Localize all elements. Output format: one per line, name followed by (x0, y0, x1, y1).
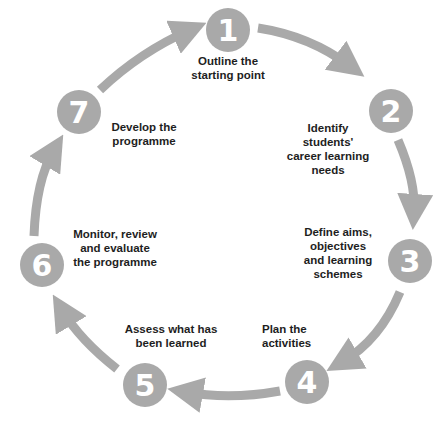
step-7-label: Develop the programme (104, 120, 184, 148)
step-5-circle: 5 (123, 363, 167, 407)
step-7-circle: 7 (57, 90, 101, 134)
step-1-label: Outline the starting point (178, 54, 278, 82)
arrow-4-to-5 (185, 391, 280, 396)
step-2-label: Identify students' career learning needs (276, 121, 380, 177)
step-3-circle: 3 (388, 239, 432, 283)
step-5-label: Assess what has been learned (116, 322, 226, 350)
step-4-label: Plan the activities (262, 322, 332, 350)
arrow-2-to-3 (398, 140, 414, 212)
step-6-circle: 6 (20, 243, 64, 287)
career-learning-cycle-diagram: 1 2 3 4 5 6 7 Outline the starting point… (0, 0, 441, 431)
arrow-6-to-7 (34, 150, 54, 236)
step-6-label: Monitor, review and evaluate the program… (66, 227, 164, 269)
step-1-circle: 1 (206, 8, 250, 52)
arrow-7-to-1 (100, 30, 190, 90)
arrow-3-to-4 (342, 292, 400, 362)
step-3-label: Define aims, objectives and learning sch… (292, 225, 384, 281)
step-4-circle: 4 (285, 360, 329, 404)
arrow-5-to-6 (62, 310, 117, 369)
